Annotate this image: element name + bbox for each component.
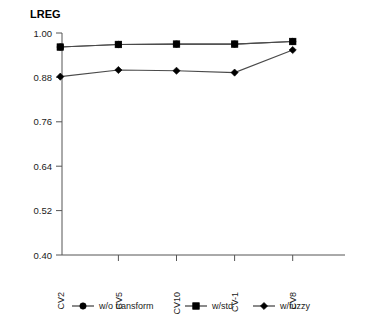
- x-tick-label: CV10: [172, 292, 182, 315]
- y-tick-label: 0.52: [34, 205, 53, 216]
- line-chart: LREG 1.000.880.760.640.520.40 CV2CV5CV10…: [0, 0, 375, 324]
- data-point: [231, 41, 238, 48]
- legend-marker-circle-icon: [80, 303, 86, 309]
- data-point: [173, 67, 180, 74]
- x-tick-label: CV2: [56, 292, 66, 310]
- data-point: [231, 69, 238, 76]
- legend-item-diamond[interactable]: w/fuzzy: [253, 301, 311, 311]
- y-tick-label: 0.64: [34, 161, 53, 172]
- data-point: [289, 38, 296, 45]
- legend-marker-square-icon: [193, 303, 200, 310]
- legend-label: w/o transform: [98, 301, 154, 311]
- legend-item-square[interactable]: w/std: [185, 301, 233, 311]
- series-square: [57, 38, 296, 50]
- y-axis-ticks: 1.000.880.760.640.520.40: [34, 28, 63, 261]
- y-tick-label: 0.88: [34, 72, 53, 83]
- y-tick-label: 0.76: [34, 116, 53, 127]
- chart-figure: LREG 1.000.880.760.640.520.40 CV2CV5CV10…: [0, 0, 375, 324]
- data-point: [57, 73, 64, 80]
- data-point: [115, 41, 122, 48]
- data-point: [115, 66, 122, 73]
- data-point: [57, 44, 64, 51]
- chart-legend: w/o transformw/stdw/fuzzy: [72, 301, 311, 311]
- chart-title: LREG: [30, 8, 61, 20]
- legend-item-circle[interactable]: w/o transform: [72, 301, 154, 311]
- legend-label: w/std: [211, 301, 233, 311]
- series-group: [57, 38, 297, 80]
- data-point: [173, 41, 180, 48]
- data-point: [289, 46, 296, 53]
- y-tick-label: 1.00: [34, 28, 53, 39]
- legend-label: w/fuzzy: [279, 301, 311, 311]
- y-tick-label: 0.40: [34, 250, 53, 261]
- legend-marker-diamond-icon: [260, 302, 267, 309]
- series-diamond: [57, 46, 297, 80]
